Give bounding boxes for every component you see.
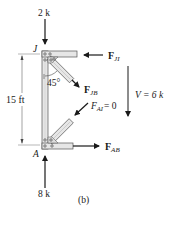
svg-text:FJI: FJI (108, 50, 120, 63)
load-2k-label: 2 k (38, 8, 50, 18)
svg-text:FAI= 0: FAI= 0 (90, 101, 117, 112)
shear-force: V = 6 k (128, 66, 164, 116)
force-f-ab: FAB (73, 141, 120, 154)
force-f-ai: FAI= 0 (75, 101, 117, 115)
load-2k: 2 k (38, 8, 50, 44)
force-f-ji: FJI (84, 50, 120, 63)
reaction-8k: 8 k (38, 156, 50, 199)
f-jb-subscript: JB (90, 89, 98, 97)
height-dimension: 15 ft (6, 54, 40, 145)
angle-label: 45° (47, 78, 61, 88)
f-ai-subscript: AI (96, 105, 104, 112)
shear-label: V = 6 k (135, 90, 164, 100)
figure-caption: (b) (78, 195, 89, 206)
f-ab-subscript: AB (110, 146, 120, 154)
f-ai-value: = 0 (104, 101, 117, 111)
f-ji-subscript: JI (114, 55, 120, 63)
svg-text:FJB: FJB (84, 84, 98, 97)
joint-j-label: J (33, 44, 38, 54)
height-dimension-label: 15 ft (6, 94, 25, 105)
svg-text:FAB: FAB (105, 141, 120, 154)
member-ab (42, 143, 73, 149)
force-f-jb: FJB (72, 80, 98, 97)
member-ji (42, 51, 77, 57)
free-body-diagram: 15 ft 45° 2 k (0, 0, 175, 226)
reaction-8k-label: 8 k (38, 189, 50, 199)
joint-a-label: A (32, 149, 39, 159)
